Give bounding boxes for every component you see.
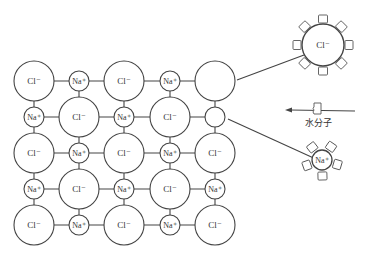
sodium-ion: [205, 107, 225, 127]
ion-label: Na⁺: [163, 77, 176, 86]
chloride-ion: Cl⁻: [14, 205, 54, 245]
ion-label: Cl⁻: [117, 148, 131, 158]
ion-label: Cl⁻: [27, 76, 41, 86]
ion-label: Cl⁻: [208, 148, 222, 158]
chloride-ion: Cl⁻: [104, 205, 144, 245]
sodium-ion: Na⁺: [69, 71, 89, 91]
chloride-ion: Cl⁻: [59, 169, 99, 209]
ion-label: Cl⁻: [117, 76, 131, 86]
connector-cl: [237, 55, 304, 80]
sodium-ion: Na⁺: [114, 107, 134, 127]
water-molecule-label: 水分子: [305, 117, 332, 128]
water-molecule-indicator: 水分子: [285, 103, 355, 128]
water-molecule-icon: [319, 67, 328, 75]
chloride-ion: Cl⁻: [104, 133, 144, 173]
ion-label: Cl⁻: [72, 184, 86, 194]
chloride-ion: Cl⁻: [150, 97, 190, 137]
ion-label: Na⁺: [163, 221, 176, 230]
ion-label: Na⁺: [72, 221, 85, 230]
ion-label: Na⁺: [27, 185, 40, 194]
chloride-ion: Cl⁻: [104, 61, 144, 101]
water-molecule-icon: [302, 160, 313, 171]
ion-label: Cl⁻: [72, 112, 86, 122]
ion-label: Na⁺: [163, 149, 176, 158]
ion-label: Na⁺: [117, 185, 130, 194]
chloride-ion: Cl⁻: [195, 133, 235, 173]
chloride-ion: Cl⁻: [14, 61, 54, 101]
ion-label: Cl⁻: [27, 148, 41, 158]
arrow-head-icon: [285, 108, 292, 113]
chloride-ion: Cl⁻: [59, 97, 99, 137]
ion-label: Na⁺: [208, 185, 221, 194]
ion-label: Cl⁻: [208, 220, 222, 230]
water-molecule-icon: [332, 159, 342, 170]
hydrated-sodium-ion: Na⁺: [312, 150, 332, 170]
water-molecule-icon: [313, 103, 321, 114]
sodium-ion: Na⁺: [205, 179, 225, 199]
chloride-ion: Cl⁻: [14, 133, 54, 173]
sodium-ion: Na⁺: [114, 179, 134, 199]
water-molecule-icon: [345, 41, 353, 50]
sodium-ion: Na⁺: [160, 71, 180, 91]
chloride-ion: [195, 61, 235, 101]
sodium-ion: Na⁺: [160, 143, 180, 163]
water-molecule-icon: [318, 172, 327, 180]
hydrated-chloride-ion: Cl⁻: [302, 24, 344, 66]
lattice-ions: Cl⁻Na⁺Cl⁻Na⁺Na⁺Cl⁻Na⁺Cl⁻Cl⁻Na⁺Cl⁻Na⁺Cl⁻N…: [14, 61, 235, 245]
ion-label: Na⁺: [117, 113, 130, 122]
water-molecule-icon: [319, 15, 328, 23]
hydrated-na-label: Na⁺: [315, 156, 328, 165]
ion-label: Na⁺: [27, 113, 40, 122]
sodium-ion: Na⁺: [24, 179, 44, 199]
hydrated-cl-label: Cl⁻: [316, 40, 330, 50]
sodium-ion: Na⁺: [24, 107, 44, 127]
arrow-line: [290, 110, 355, 111]
nacl-dissolution-diagram: Cl⁻Na⁺Cl⁻Na⁺Na⁺Cl⁻Na⁺Cl⁻Cl⁻Na⁺Cl⁻Na⁺Cl⁻N…: [0, 0, 374, 259]
sodium-ion: Na⁺: [69, 143, 89, 163]
chloride-ion: Cl⁻: [150, 169, 190, 209]
ion-label: Na⁺: [72, 77, 85, 86]
ion-label: Cl⁻: [27, 220, 41, 230]
ion-label: Na⁺: [72, 149, 85, 158]
ion-label: Cl⁻: [163, 112, 177, 122]
sodium-ion: Na⁺: [160, 215, 180, 235]
water-molecule-icon: [293, 41, 301, 50]
ion-label: Cl⁻: [163, 184, 177, 194]
ion-label: Cl⁻: [117, 220, 131, 230]
sodium-ion: Na⁺: [69, 215, 89, 235]
chloride-ion: Cl⁻: [195, 205, 235, 245]
